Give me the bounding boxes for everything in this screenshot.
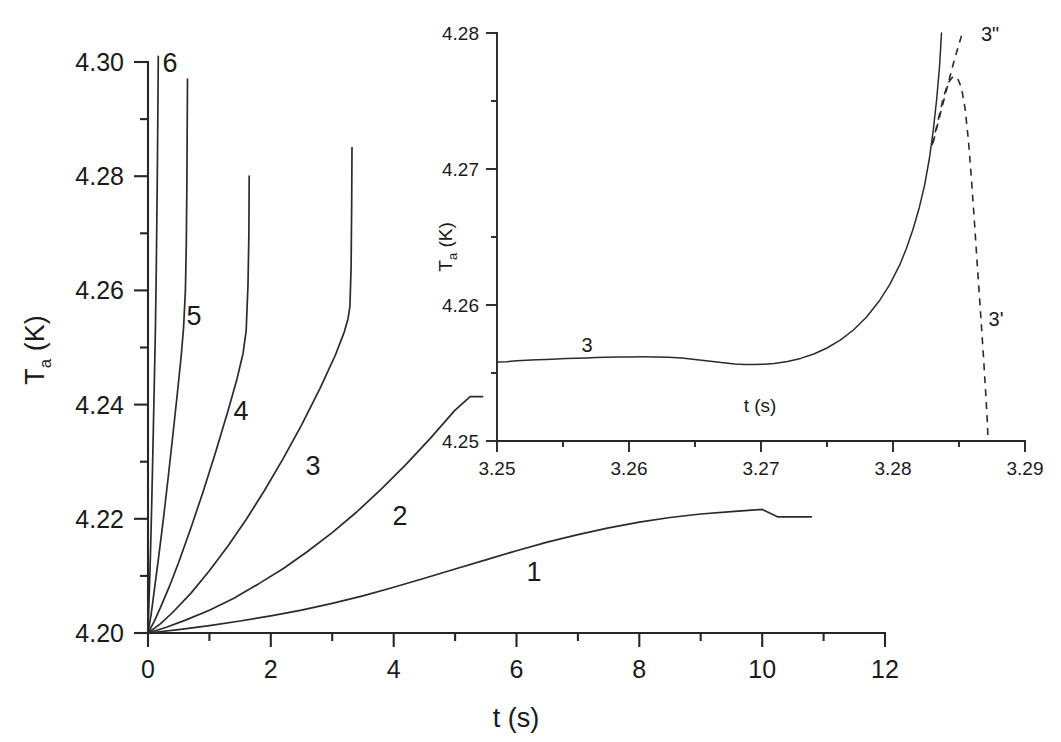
curve-2: [148, 397, 483, 633]
inset-curve-3: [497, 33, 942, 365]
inset-x-ticklabel-2: 3.27: [743, 458, 780, 479]
inset-curve-label-3-dblprime: 3": [981, 23, 999, 45]
main-curve-label-3: 3: [305, 451, 320, 481]
curve-6: [148, 56, 158, 633]
main-curve-label-2: 2: [392, 501, 407, 531]
main-y-axis-label: Ta (K): [20, 315, 55, 384]
curve-5: [148, 79, 188, 633]
inset-y-ticklabel-1: 4.26: [442, 295, 479, 316]
main-x-major-ticks: [148, 633, 885, 647]
main-y-axis-label-unit: (K): [20, 315, 50, 359]
inset-x-major-ticks: [497, 441, 1025, 452]
main-curve-label-5: 5: [186, 301, 201, 331]
inset-x-ticklabel-4: 3.29: [1007, 458, 1044, 479]
main-y-axis-label-base: T: [20, 368, 50, 385]
main-y-ticklabel-3: 4.26: [75, 276, 124, 304]
svg-text:Ta (K): Ta (K): [435, 222, 460, 271]
figure-container: 4.20 4.22 4.24 4.26 4.28 4.30 0 2 4 6 8 …: [0, 0, 1061, 742]
inset-y-ticklabel-2: 4.27: [442, 159, 479, 180]
inset-y-axis-label-unit: (K): [435, 222, 456, 253]
main-y-ticklabel-1: 4.22: [75, 505, 124, 533]
inset-y-ticklabel-3: 4.28: [442, 23, 479, 44]
main-x-ticklabel-6: 12: [871, 655, 899, 683]
main-y-ticklabel-0: 4.20: [75, 619, 124, 647]
inset-curve-3-prime: [932, 77, 988, 442]
inset-y-axis-label-base: T: [435, 260, 456, 272]
inset-x-ticklabel-3: 3.28: [875, 458, 912, 479]
main-y-ticklabel-4: 4.28: [75, 162, 124, 190]
main-axes: 4.20 4.22 4.24 4.26 4.28 4.30 0 2 4 6 8 …: [20, 48, 899, 733]
inset-x-ticklabel-1: 3.26: [611, 458, 648, 479]
main-curve-label-6: 6: [162, 48, 177, 78]
inset-y-ticklabel-0: 4.25: [442, 431, 479, 452]
main-curve-label-1: 1: [526, 557, 541, 587]
main-x-ticklabel-5: 10: [748, 655, 776, 683]
inset-x-axis-label: t (s): [744, 395, 777, 416]
main-curve-label-4: 4: [233, 396, 248, 426]
main-x-axis-label: t (s): [493, 703, 540, 733]
main-x-ticklabel-0: 0: [141, 655, 155, 683]
curve-1: [148, 509, 811, 633]
main-x-ticklabel-1: 2: [264, 655, 278, 683]
svg-text:Ta (K): Ta (K): [20, 315, 55, 384]
main-x-ticklabel-2: 4: [387, 655, 401, 683]
main-y-minor-ticks: [140, 119, 148, 576]
inset-curve-label-3-prime: 3': [989, 308, 1004, 330]
inset-x-ticklabel-0: 3.25: [479, 458, 516, 479]
inset-axes: 4.25 4.26 4.27 4.28 3.25 3.26 3.27 3.28 …: [435, 23, 1043, 479]
inset-curve-label-3: 3: [581, 334, 592, 356]
main-x-ticklabel-4: 8: [632, 655, 646, 683]
main-y-ticklabel-5: 4.30: [75, 48, 124, 76]
main-x-ticklabel-3: 6: [510, 655, 524, 683]
chart-svg: 4.20 4.22 4.24 4.26 4.28 4.30 0 2 4 6 8 …: [0, 0, 1061, 742]
main-y-ticklabel-2: 4.24: [75, 391, 124, 419]
inset-y-axis-label: Ta (K): [435, 222, 460, 271]
